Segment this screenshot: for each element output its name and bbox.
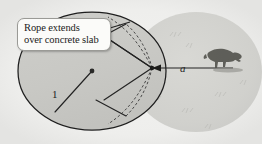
slab-center-dot (90, 69, 95, 74)
callout-line-2: over concrete slab (24, 34, 105, 46)
callout-box: Rope extends over concrete slab (17, 18, 111, 51)
rope-length-label: a (180, 62, 186, 74)
radius-label: 1 (52, 88, 58, 100)
callout-line-1: Rope extends (24, 22, 105, 34)
goat-shadow (213, 67, 243, 72)
